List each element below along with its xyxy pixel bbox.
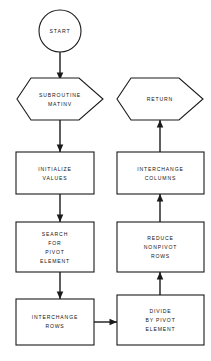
node-start[interactable]: START: [39, 10, 81, 52]
node-interchange-rows[interactable]: INTERCHANGE ROWS: [16, 299, 94, 345]
node-subroutine-matinv[interactable]: SUBROUTINE MATINV: [17, 78, 103, 120]
node-interchange-rows-label-line1: INTERCHANGE: [32, 314, 78, 320]
node-initialize-label-line2: VALUES: [43, 175, 68, 181]
node-divide-label-line1: DIVIDE: [149, 308, 171, 314]
node-reduce-nonpivot-rows[interactable]: REDUCE NONPIVOT ROWS: [117, 222, 204, 272]
node-search-label-line3: PIVOT: [45, 249, 65, 255]
edge-subroutine-to-initialize: [57, 120, 64, 152]
edge-start-to-subroutine: [57, 52, 64, 80]
node-subroutine-label-line2: MATINV: [48, 101, 72, 107]
flowchart-page: START SUBROUTINE MATINV RETURN INITIALIZ…: [0, 0, 211, 361]
node-divide-label-line3: ELEMENT: [145, 326, 175, 332]
node-divide-by-pivot-element[interactable]: DIVIDE BY PIVOT ELEMENT: [117, 295, 204, 345]
node-reduce-label-line2: NONPIVOT: [144, 244, 177, 250]
edge-interchange-rows-to-divide: [94, 319, 117, 326]
node-start-label: START: [49, 28, 70, 34]
node-initialize-values[interactable]: INITIALIZE VALUES: [16, 152, 94, 194]
node-search-for-pivot-element[interactable]: SEARCH FOR PIVOT ELEMENT: [16, 222, 94, 272]
node-divide-label-line2: BY PIVOT: [145, 317, 175, 323]
node-interchange-columns-label-line1: INTERCHANGE: [137, 166, 183, 172]
node-search-label-line2: FOR: [48, 240, 61, 246]
edge-initialize-to-search: [57, 194, 64, 222]
edge-divide-to-reduce: [157, 272, 164, 295]
flowchart-canvas: START SUBROUTINE MATINV RETURN INITIALIZ…: [0, 0, 211, 361]
node-initialize-label-line1: INITIALIZE: [38, 166, 72, 172]
node-interchange-rows-label-line2: ROWS: [45, 323, 64, 329]
node-search-label-line4: ELEMENT: [40, 258, 70, 264]
node-interchange-columns-label-line2: COLUMNS: [145, 175, 176, 181]
node-interchange-columns[interactable]: INTERCHANGE COLUMNS: [117, 152, 204, 194]
edge-search-to-interchange-rows: [57, 272, 64, 299]
node-return-label: RETURN: [147, 96, 173, 102]
node-search-label-line1: SEARCH: [42, 231, 68, 237]
node-reduce-label-line3: ROWS: [151, 253, 170, 259]
node-subroutine-label-line1: SUBROUTINE: [39, 92, 81, 98]
edge-reduce-to-interchange-columns: [157, 194, 164, 222]
node-return[interactable]: RETURN: [117, 78, 203, 120]
node-reduce-label-line1: REDUCE: [147, 235, 174, 241]
edge-interchange-columns-to-return: [157, 120, 164, 152]
